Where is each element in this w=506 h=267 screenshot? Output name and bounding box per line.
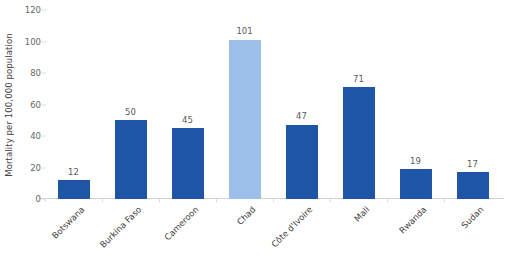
bar-chart: Mortality per 100,000 population 1250451… (0, 0, 506, 267)
x-axis-category-label: Botswana (0, 205, 86, 267)
y-axis-tick-mark (42, 10, 46, 11)
bar-value-label: 17 (467, 160, 478, 169)
y-axis-tick-label: 120 (0, 6, 41, 15)
bar[interactable] (343, 87, 375, 199)
y-axis-tick-mark (42, 41, 46, 42)
plot-area: 12504510147711917 120100806040200 (45, 10, 501, 199)
y-axis-tick-label: 60 (0, 100, 41, 109)
bar[interactable] (400, 169, 432, 199)
y-axis-tick-label: 20 (0, 163, 41, 172)
x-axis-labels: BotswanaBurkina FasoCameroonChadCôte d'I… (45, 199, 501, 267)
y-axis-tick-mark (42, 136, 46, 137)
bar-value-label: 71 (353, 75, 364, 84)
y-axis-tick-label: 80 (0, 69, 41, 78)
bars-layer: 12504510147711917 (45, 10, 501, 199)
bar-value-label: 19 (410, 157, 421, 166)
bar-value-label: 47 (296, 112, 307, 121)
y-axis-tick-mark (42, 104, 46, 105)
bar[interactable] (58, 180, 90, 199)
y-axis-tick-label: 40 (0, 132, 41, 141)
y-axis-tick-mark (42, 73, 46, 74)
bar-value-label: 45 (182, 116, 193, 125)
bar[interactable] (286, 125, 318, 199)
bar-value-label: 12 (68, 168, 79, 177)
bar[interactable] (172, 128, 204, 199)
bar[interactable] (229, 40, 261, 199)
y-axis-tick-label: 100 (0, 37, 41, 46)
y-axis-tick-label: 0 (0, 195, 41, 204)
bar-value-label: 50 (125, 108, 136, 117)
y-axis-tick-mark (42, 167, 46, 168)
bar-value-label: 101 (236, 27, 252, 36)
bar[interactable] (115, 120, 147, 199)
bar[interactable] (457, 172, 489, 199)
